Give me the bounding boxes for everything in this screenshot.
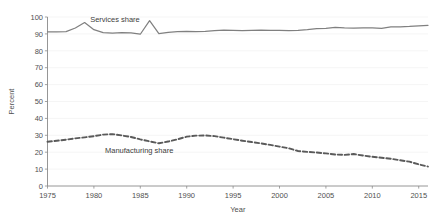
y-tick-label: 50 — [35, 97, 43, 106]
x-tick-label: 1985 — [132, 191, 149, 200]
y-tick-label: 60 — [35, 80, 43, 89]
x-axis-title: Year — [230, 205, 246, 214]
y-tick-label: 100 — [30, 13, 43, 22]
manufacturing-share-annotation: Manufacturing share — [105, 146, 173, 155]
x-tick-label: 2015 — [410, 191, 427, 200]
y-tick-label: 10 — [35, 165, 43, 174]
y-tick-label: 30 — [35, 131, 43, 140]
x-tick-label: 2000 — [271, 191, 288, 200]
x-tick-label: 1980 — [86, 191, 103, 200]
x-tick-label: 1990 — [178, 191, 195, 200]
x-tick-label: 1975 — [39, 191, 56, 200]
chart-container: 0102030405060708090100 19751980198519901… — [0, 0, 442, 215]
x-tick-label: 2005 — [318, 191, 335, 200]
services-share-annotation: Services share — [90, 15, 140, 24]
x-tick-label: 2010 — [364, 191, 381, 200]
y-tick-label: 40 — [35, 114, 43, 123]
y-tick-label: 90 — [35, 30, 43, 39]
y-tick-label: 80 — [35, 47, 43, 56]
y-tick-label: 0 — [39, 182, 43, 191]
y-axis-ticks-group: 0102030405060708090100 — [30, 13, 47, 191]
line-chart: 0102030405060708090100 19751980198519901… — [0, 0, 442, 215]
x-axis-ticks-group: 197519801985199019952000200520102015 — [39, 186, 427, 200]
x-tick-label: 1995 — [225, 191, 242, 200]
y-axis-title: Percent — [7, 88, 16, 115]
y-tick-label: 20 — [35, 148, 43, 157]
y-tick-label: 70 — [35, 63, 43, 72]
